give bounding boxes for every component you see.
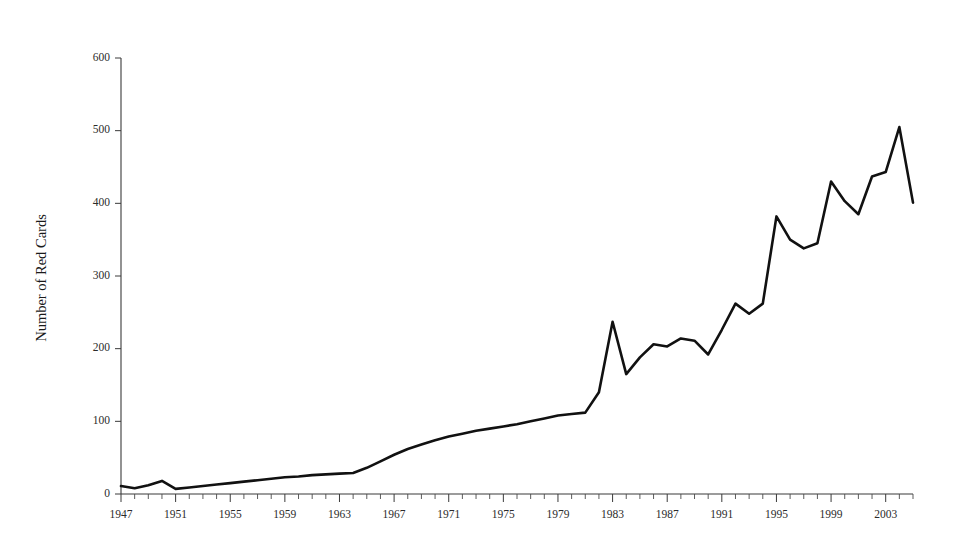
x-tick-label: 1963 xyxy=(328,508,351,520)
x-tick-label: 1987 xyxy=(656,508,679,520)
y-tick-label: 300 xyxy=(93,269,111,281)
x-tick-label: 1959 xyxy=(273,508,296,520)
x-tick-label: 1967 xyxy=(383,508,406,520)
y-tick-label: 600 xyxy=(93,51,111,63)
x-tick-label: 1991 xyxy=(710,508,733,520)
y-tick-label: 500 xyxy=(93,123,111,135)
y-tick-label: 400 xyxy=(93,196,111,208)
x-tick-label: 1971 xyxy=(437,508,460,520)
x-tick-label: 1999 xyxy=(820,508,843,520)
x-tick-label: 2003 xyxy=(874,508,897,520)
line-chart: Number of Red Cards 0100200300400500600 … xyxy=(0,0,963,558)
x-tick-label: 1951 xyxy=(164,508,187,520)
y-axis: 0100200300400500600 xyxy=(93,51,121,499)
y-tick-label: 100 xyxy=(93,414,111,426)
y-tick-label: 0 xyxy=(104,487,110,499)
data-line-number-of-red-cards xyxy=(121,127,913,489)
chart-container: Number of Red Cards 0100200300400500600 … xyxy=(0,0,963,558)
x-tick-label: 1979 xyxy=(546,508,569,520)
x-axis: 1947195119551959196319671971197519791983… xyxy=(110,494,914,520)
x-tick-label: 1995 xyxy=(765,508,788,520)
x-tick-label: 1955 xyxy=(219,508,242,520)
y-tick-label: 200 xyxy=(93,341,111,353)
x-tick-label: 1975 xyxy=(492,508,515,520)
y-axis-title: Number of Red Cards xyxy=(33,214,49,342)
x-tick-label: 1947 xyxy=(110,508,133,520)
x-tick-label: 1983 xyxy=(601,508,624,520)
